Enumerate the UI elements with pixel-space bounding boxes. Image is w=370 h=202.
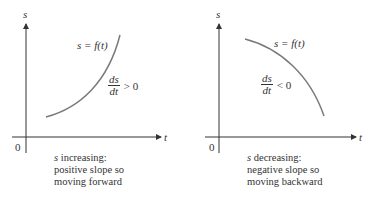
left-s-axis-label: s xyxy=(23,8,27,20)
right-derivative-relation: < 0 xyxy=(277,79,291,91)
left-curve-label: s = f(t) xyxy=(77,39,108,51)
left-caption-line2: positive slope so xyxy=(54,164,124,176)
right-caption-line1: decreasing: xyxy=(251,152,301,163)
left-derivative-denominator: dt xyxy=(110,86,119,97)
right-caption-line3: moving backward xyxy=(247,176,323,188)
right-t-axis-label: t xyxy=(359,131,362,143)
left-caption: s increasing: positive slope so moving f… xyxy=(54,152,124,188)
right-curve-label: s = f(t) xyxy=(274,37,305,49)
left-derivative-relation: > 0 xyxy=(124,80,138,92)
right-s-axis-label: s xyxy=(216,8,220,20)
right-caption: s decreasing: negative slope so moving b… xyxy=(247,152,323,188)
left-derivative-label: dsdt > 0 xyxy=(108,74,138,97)
left-t-axis-label: t xyxy=(164,131,167,143)
right-derivative-denominator: dt xyxy=(263,85,272,96)
right-origin-label: 0 xyxy=(209,141,215,153)
left-caption-line1: increasing: xyxy=(58,152,107,163)
right-caption-line2: negative slope so xyxy=(247,164,323,176)
left-origin-label: 0 xyxy=(15,141,21,153)
right-derivative-label: dsdt < 0 xyxy=(261,73,291,96)
left-caption-line3: moving forward xyxy=(54,176,124,188)
